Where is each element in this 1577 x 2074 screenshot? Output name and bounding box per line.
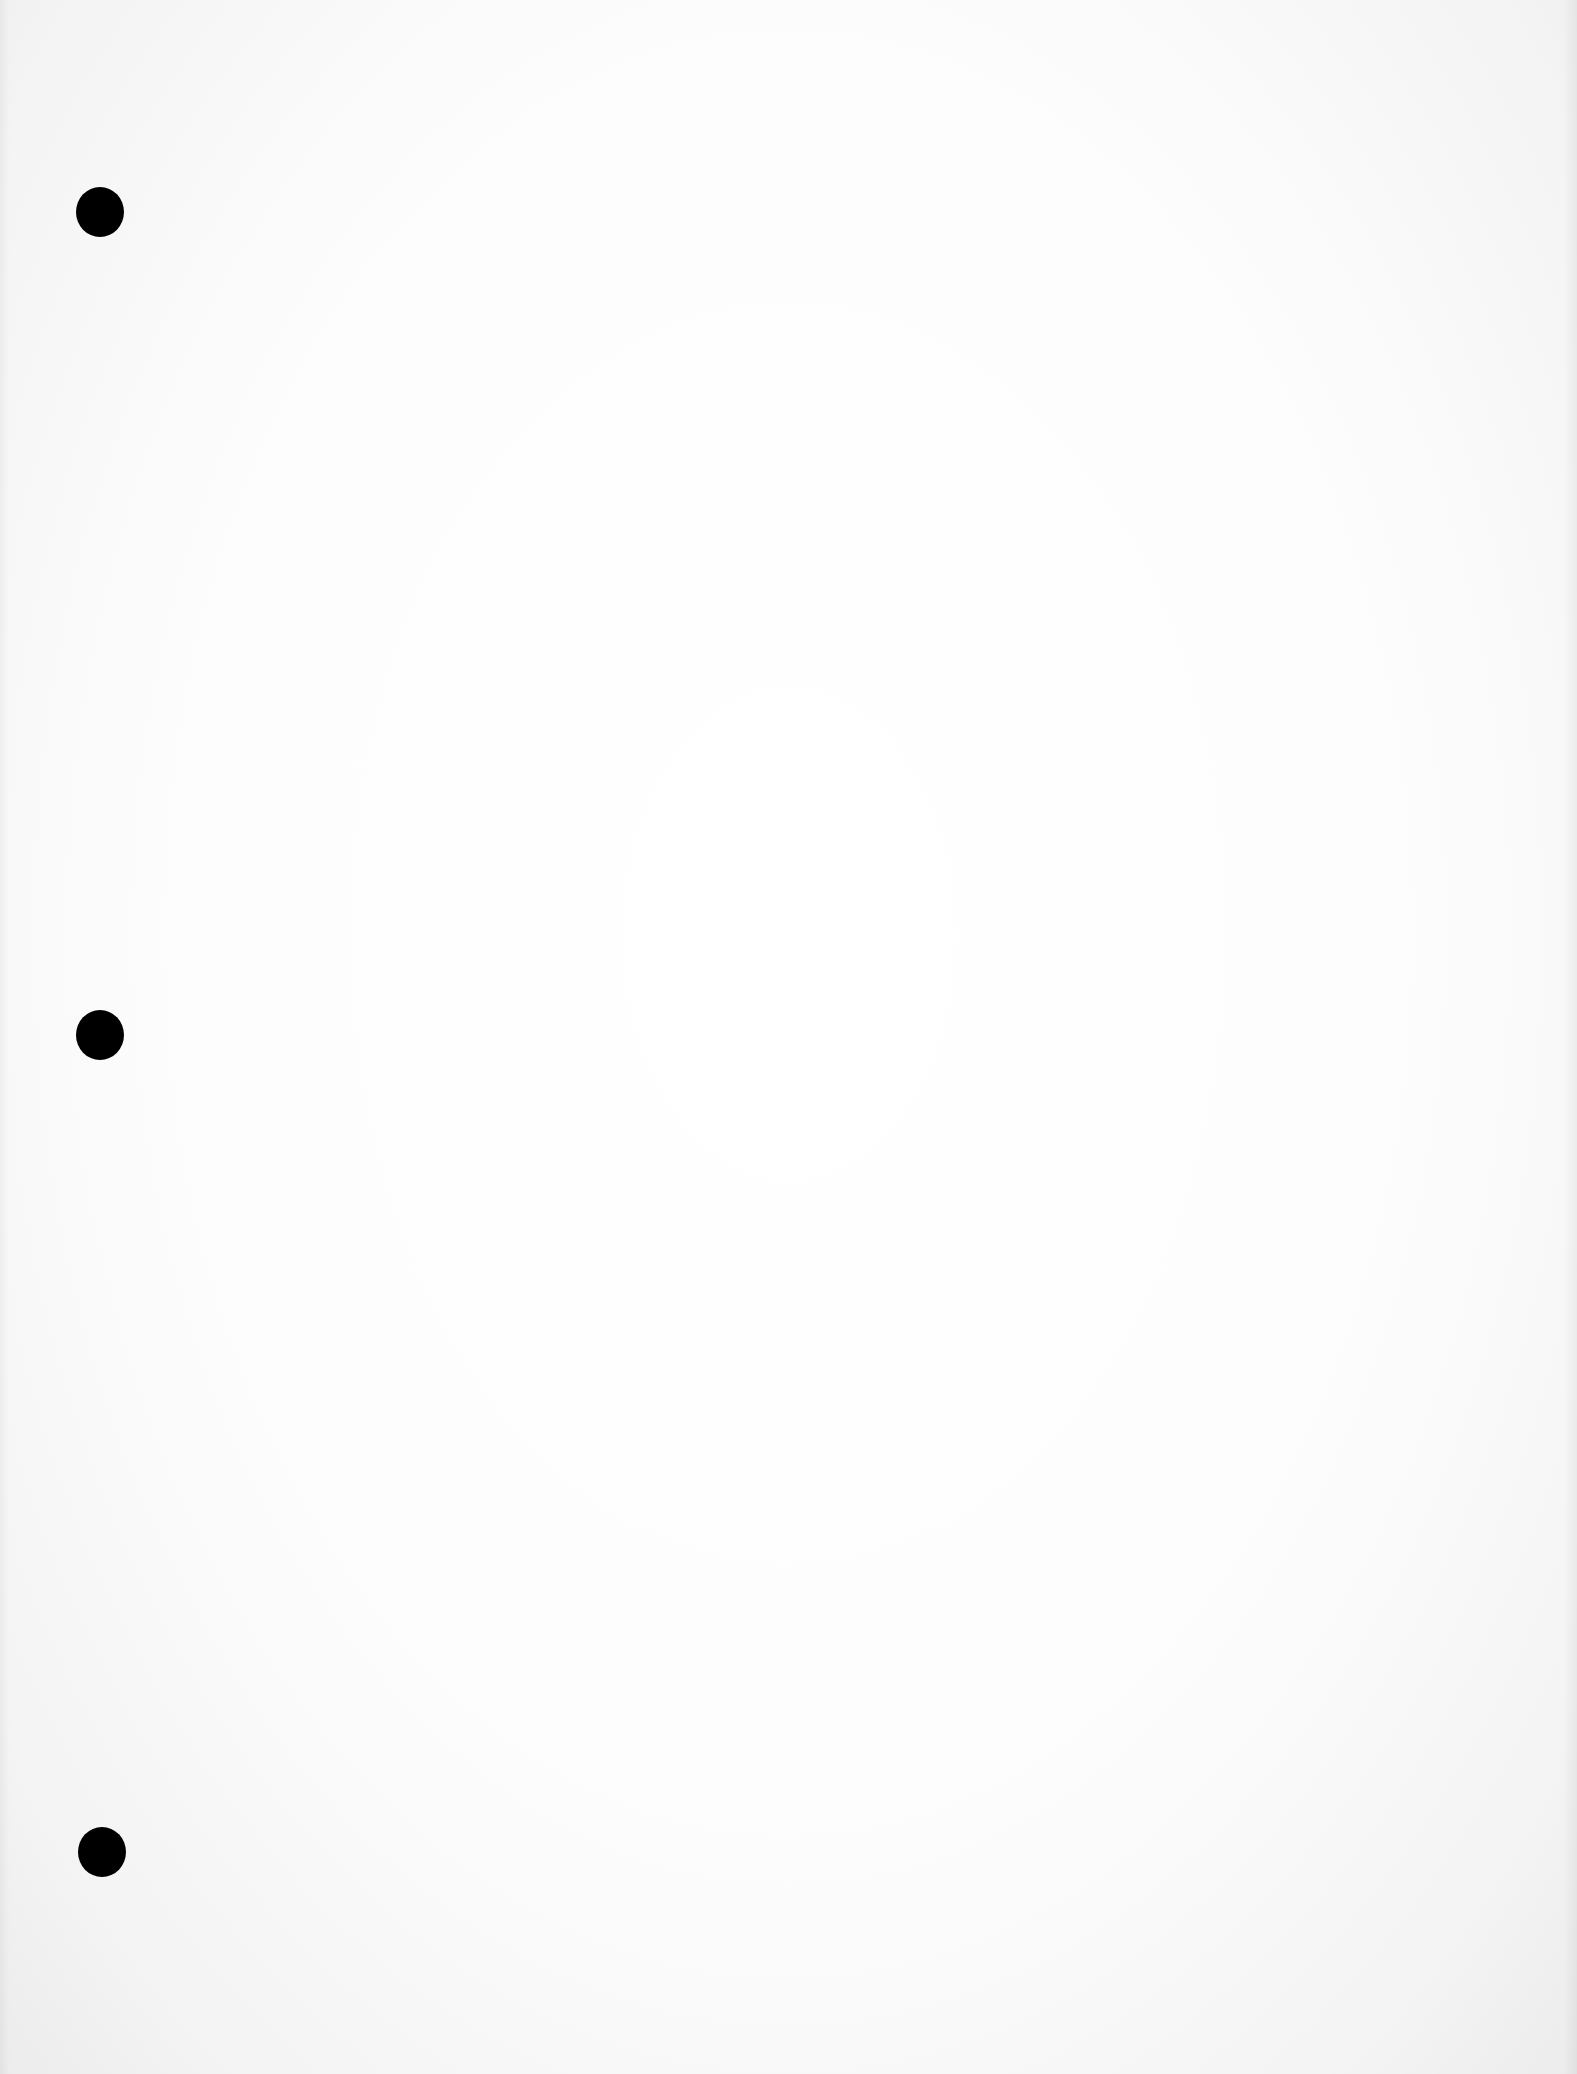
blank-page: [0, 0, 1577, 2074]
punch-hole-top: [76, 187, 124, 237]
punch-hole-bottom: [78, 1827, 126, 1877]
page-right-edge-shadow: [1563, 0, 1577, 2074]
page-left-edge-shadow: [0, 0, 10, 2074]
punch-hole-middle: [76, 1010, 124, 1060]
